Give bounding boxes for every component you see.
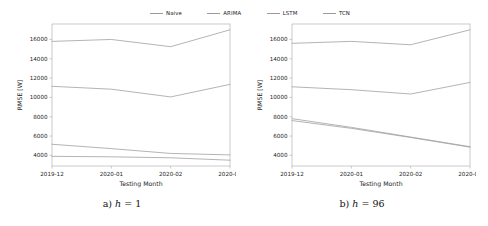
legend-swatch-naive (150, 13, 163, 14)
y-tick-label: 6000 (273, 133, 288, 139)
legend-entry-lstm: LSTM (267, 10, 298, 16)
series-line-tcn (292, 121, 470, 148)
chart-panel-b: 400060008000100001200014000160002019-122… (248, 18, 476, 196)
caption-a: a) h = 1 (8, 198, 236, 209)
y-tick-label: 14000 (270, 56, 288, 62)
legend-entry-arima: ARIMA (207, 10, 241, 16)
series-line-lstm (52, 144, 230, 155)
caption-a-equals: = (124, 198, 132, 209)
x-tick-label: 2020-01 (100, 171, 124, 177)
legend-swatch-tcn (323, 13, 336, 14)
x-tick-label: 2019-12 (40, 171, 63, 177)
caption-a-prefix: a) (103, 198, 112, 209)
legend-label-lstm: LSTM (283, 10, 298, 16)
y-tick-label: 16000 (30, 36, 48, 42)
line-chart-b: 400060008000100001200014000160002019-122… (248, 18, 476, 196)
y-tick-label: 12000 (270, 75, 288, 81)
y-tick-label: 16000 (270, 36, 288, 42)
figure-rmse-by-testing-month: Naive ARIMA LSTM TCN 4000600080001000012… (0, 0, 488, 226)
caption-a-value: 1 (135, 198, 141, 209)
caption-b-variable: h (352, 198, 358, 209)
caption-b-prefix: b) (339, 198, 349, 209)
legend-label-naive: Naive (166, 10, 182, 16)
series-line-naive (52, 30, 230, 47)
y-axis-title: RMSE [W] (16, 80, 23, 110)
y-tick-label: 6000 (33, 133, 48, 139)
x-tick-label: 2019-12 (280, 171, 303, 177)
x-tick-label: 2020-02 (399, 171, 422, 177)
caption-b-equals: = (361, 198, 369, 209)
y-tick-label: 8000 (273, 114, 288, 120)
y-tick-label: 4000 (33, 152, 48, 158)
x-axis-title: Testing Month (358, 180, 402, 188)
y-tick-label: 4000 (273, 152, 288, 158)
series-line-naive (292, 30, 470, 45)
y-tick-label: 8000 (33, 114, 48, 120)
caption-b: b) h = 96 (248, 198, 476, 209)
x-tick-label: 2020-03 (458, 171, 476, 177)
legend-label-arima: ARIMA (223, 10, 241, 16)
y-tick-label: 12000 (30, 75, 48, 81)
x-tick-label: 2020-02 (159, 171, 182, 177)
chart-panel-a: 400060008000100001200014000160002019-122… (8, 18, 236, 196)
y-tick-label: 14000 (30, 56, 48, 62)
caption-a-variable: h (115, 198, 121, 209)
line-chart-a: 400060008000100001200014000160002019-122… (8, 18, 236, 196)
caption-b-value: 96 (372, 198, 384, 209)
legend-entry-naive: Naive (150, 10, 182, 16)
legend-swatch-lstm (267, 13, 280, 14)
series-line-tcn (52, 156, 230, 160)
x-axis-title: Testing Month (118, 180, 162, 188)
y-axis-title: RMSE [W] (256, 80, 263, 110)
legend-entry-tcn: TCN (323, 10, 350, 16)
x-tick-label: 2020-03 (218, 171, 236, 177)
x-tick-label: 2020-01 (340, 171, 364, 177)
legend-label-tcn: TCN (339, 10, 350, 16)
y-tick-label: 10000 (30, 94, 48, 100)
series-line-arima (292, 82, 470, 94)
y-tick-label: 10000 (270, 94, 288, 100)
series-line-arima (52, 84, 230, 97)
legend-swatch-arima (207, 13, 220, 14)
